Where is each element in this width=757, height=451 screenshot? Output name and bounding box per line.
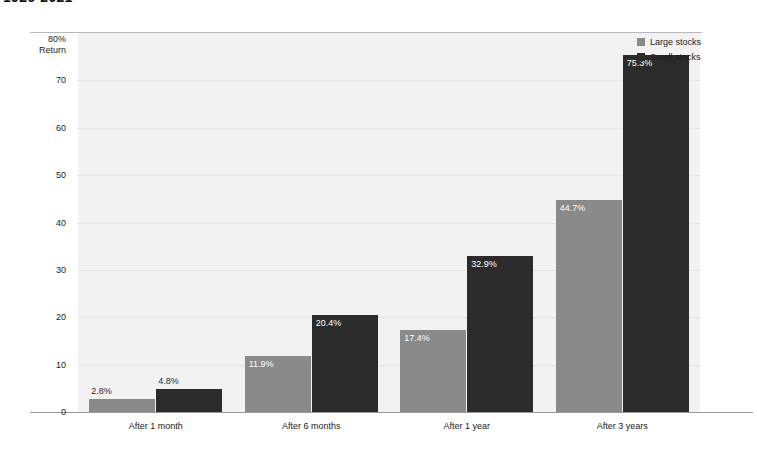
bar-small-stocks[interactable]: 20.4% <box>312 315 378 412</box>
legend-swatch-icon <box>637 38 645 46</box>
bar-large-stocks[interactable]: 2.8% <box>89 399 155 412</box>
bar-value-label: 20.4% <box>316 318 342 328</box>
x-axis-tick-label: After 1 month <box>78 421 234 432</box>
legend-item-label: Small stocks <box>650 52 701 62</box>
bar-value-label: 32.9% <box>471 259 497 269</box>
bar-group: 44.7%75.3% <box>556 33 689 412</box>
bar-large-stocks[interactable]: 44.7% <box>556 200 622 412</box>
x-axis-tick-label: After 1 year <box>389 421 545 432</box>
bar-group: 11.9%20.4% <box>245 33 378 412</box>
x-axis-line <box>30 412 753 413</box>
y-axis-tick-label-0: 0 <box>61 407 66 417</box>
y-axis-tick-label-70: 70 <box>56 75 66 85</box>
bar-value-label: 11.9% <box>249 359 274 369</box>
legend-item-label: Large stocks <box>650 37 701 47</box>
y-axis: 01020304050607080% Return <box>0 0 74 451</box>
y-axis-tick-label-20: 20 <box>56 312 66 322</box>
bar-value-label: 17.4% <box>404 333 430 343</box>
bar-small-stocks[interactable]: 4.8% <box>156 389 222 412</box>
y-axis-tick-label-40: 40 <box>56 218 66 228</box>
bar-value-label: 4.8% <box>158 376 179 386</box>
x-axis-tick-label: After 6 months <box>234 421 390 432</box>
y-axis-tick-label-80: 80% Return <box>39 34 66 55</box>
legend-item-small-stocks[interactable]: Small stocks <box>637 51 749 63</box>
legend: Large stocks Small stocks <box>637 36 749 66</box>
y-axis-tick-label-50: 50 <box>56 170 66 180</box>
x-axis-tick-label: After 3 years <box>545 421 701 432</box>
bar-group: 2.8%4.8% <box>89 33 222 412</box>
legend-swatch-icon <box>637 53 645 61</box>
bar-group: 17.4%32.9% <box>400 33 533 412</box>
legend-item-large-stocks[interactable]: Large stocks <box>637 36 749 48</box>
bar-large-stocks[interactable]: 11.9% <box>245 356 311 412</box>
y-axis-tick-label-60: 60 <box>56 123 66 133</box>
y-axis-tick-label-30: 30 <box>56 265 66 275</box>
bar-small-stocks[interactable]: 75.3% <box>623 55 689 412</box>
bar-value-label: 2.8% <box>91 386 112 396</box>
plot-area: 2.8%4.8%11.9%20.4%17.4%32.9%44.7%75.3% <box>78 33 700 412</box>
bar-small-stocks[interactable]: 32.9% <box>467 256 533 412</box>
y-axis-tick-label-10: 10 <box>56 360 66 370</box>
bar-value-label: 44.7% <box>560 203 586 213</box>
bar-large-stocks[interactable]: 17.4% <box>400 330 466 412</box>
